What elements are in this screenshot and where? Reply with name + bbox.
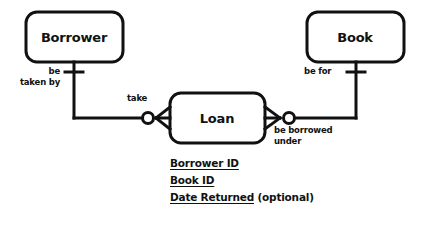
entity-label-borrower: Borrower (41, 30, 107, 45)
loan-attribute-list: Borrower ID Book ID Date Returned (optio… (170, 155, 314, 206)
attribute-note-date-returned: (optional) (254, 191, 314, 203)
role-label-be-taken-by: be taken by (0, 66, 60, 87)
cardinality-many-crowfoot-borrower-loan (156, 107, 170, 129)
relationship-line-borrower-loan (65, 62, 170, 129)
attribute-row-borrower-id: Borrower ID (170, 155, 314, 172)
entity-label-book: Book (337, 30, 373, 45)
role-label-be-for: be for (304, 66, 331, 77)
attribute-key-borrower-id: Borrower ID (170, 157, 239, 169)
role-label-be-borrowed-under-line1: be borrowed (274, 125, 332, 136)
role-label-be-for-line1: be for (304, 66, 331, 77)
role-label-be-taken-by-line1: be (0, 66, 60, 77)
role-label-be-borrowed-under: be borrowed under (274, 125, 332, 146)
role-label-take-line1: take (127, 93, 147, 104)
role-label-be-taken-by-line2: taken by (0, 77, 60, 88)
er-diagram-canvas: Borrower Book Loan be taken by take be f… (0, 0, 424, 227)
role-label-be-borrowed-under-line2: under (274, 136, 332, 147)
attribute-key-book-id: Book ID (170, 174, 214, 186)
attribute-key-date-returned: Date Returned (170, 191, 254, 203)
cardinality-zero-circle-book-loan (284, 113, 295, 124)
attribute-row-date-returned: Date Returned (optional) (170, 189, 314, 206)
cardinality-zero-circle-borrower-loan (143, 113, 154, 124)
entity-label-loan: Loan (200, 111, 234, 126)
role-label-take: take (127, 93, 147, 104)
attribute-row-book-id: Book ID (170, 172, 314, 189)
